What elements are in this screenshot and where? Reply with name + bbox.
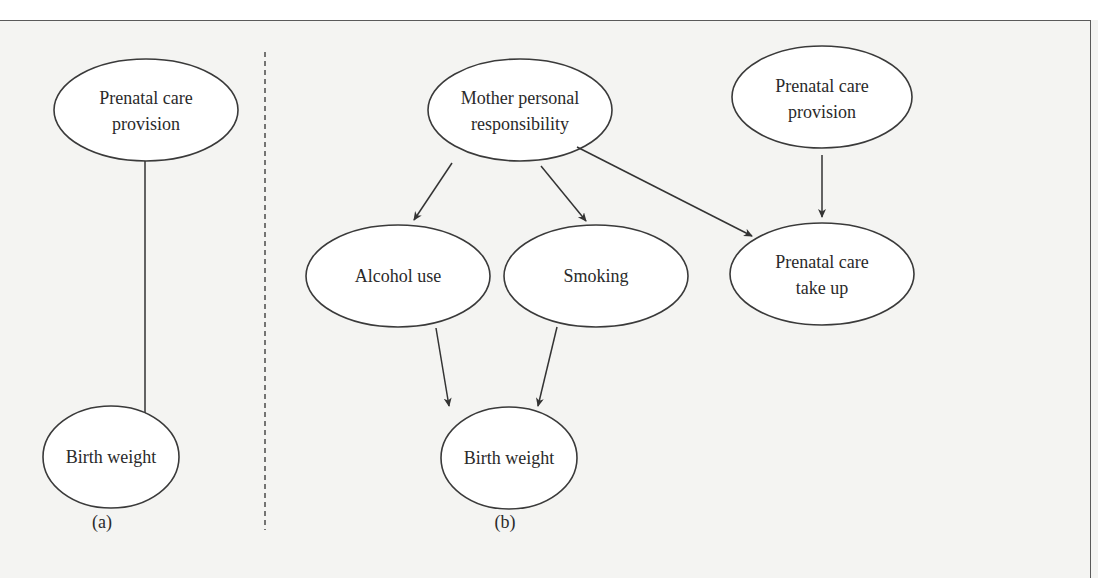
panel-label-a: (a): [92, 512, 112, 533]
edge-mother-to-smoking: [541, 166, 586, 221]
node-label: Alcohol use: [355, 266, 441, 286]
node-label: Birth weight: [66, 447, 157, 467]
node-a-birth-weight: Birth weight: [43, 406, 179, 508]
panel-a: Prenatal care provision Birth weight (a): [43, 59, 238, 533]
node-b-prenatal-care-provision: Prenatal care provision: [732, 46, 912, 148]
node-b-mother-personal-responsibility: Mother personal responsibility: [428, 59, 612, 161]
panel-b: Mother personal responsibility Prenatal …: [306, 46, 914, 533]
node-label: responsibility: [471, 114, 569, 134]
causal-diagram: Prenatal care provision Birth weight (a)…: [0, 0, 1098, 578]
node-b-alcohol-use: Alcohol use: [306, 225, 490, 327]
node-a-prenatal-care-provision: Prenatal care provision: [54, 59, 238, 161]
node-b-prenatal-care-take-up: Prenatal care take up: [730, 223, 914, 325]
node-label: Prenatal care: [775, 76, 868, 96]
node-label: Mother personal: [461, 88, 579, 108]
node-label: Birth weight: [464, 448, 555, 468]
node-label: Prenatal care: [99, 88, 192, 108]
edge-smoking-to-birthweight: [538, 327, 557, 406]
edge-mother-to-alcohol: [414, 163, 452, 220]
node-label: take up: [796, 278, 848, 298]
node-label: Smoking: [563, 266, 628, 286]
figure-page: Prenatal care provision Birth weight (a)…: [0, 0, 1098, 578]
panel-label-b: (b): [495, 512, 516, 533]
node-b-birth-weight: Birth weight: [441, 407, 577, 509]
node-label: provision: [788, 102, 856, 122]
edge-mother-to-takeup: [577, 147, 752, 236]
node-label: provision: [112, 114, 180, 134]
node-label: Prenatal care: [775, 252, 868, 272]
node-b-smoking: Smoking: [504, 225, 688, 327]
edge-alcohol-to-birthweight: [436, 328, 449, 406]
